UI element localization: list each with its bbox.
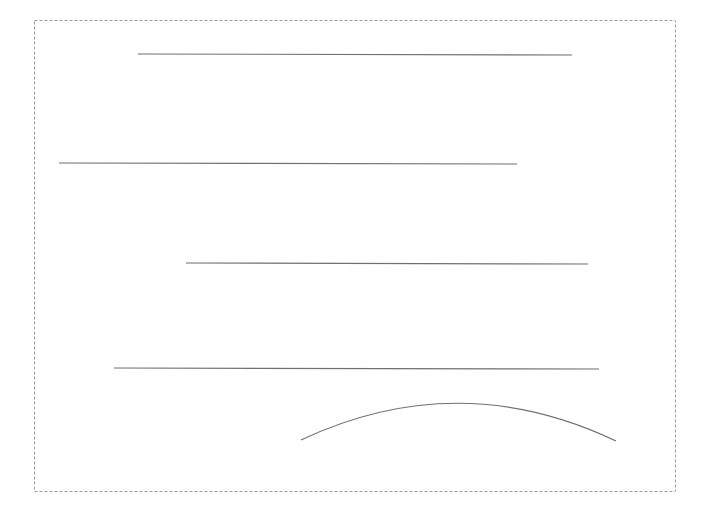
- line-2: [59, 163, 517, 164]
- drawing-canvas: [0, 0, 715, 510]
- line-4: [114, 368, 599, 369]
- dashed-frame: [35, 21, 676, 492]
- line-1: [138, 54, 572, 55]
- arc-1: [301, 403, 616, 441]
- line-3: [186, 263, 588, 264]
